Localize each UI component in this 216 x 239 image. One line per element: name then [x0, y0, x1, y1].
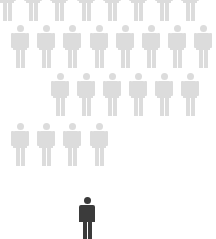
person-arm-r: [144, 0, 147, 1]
person-head: [69, 25, 76, 32]
person-leg-l: [82, 97, 86, 116]
person-leg-r: [21, 147, 25, 166]
person-arm-r: [118, 81, 121, 96]
person-icon: [104, 0, 120, 22]
person-leg-l: [82, 2, 86, 21]
person-arm-l: [11, 33, 14, 48]
person-arm-r: [105, 131, 108, 146]
person-torso: [39, 131, 53, 148]
person-icon: [52, 73, 68, 117]
person-leg-l: [134, 2, 138, 21]
person-icon: [12, 25, 28, 69]
person-head: [43, 25, 50, 32]
person-leg-l: [121, 49, 125, 68]
person-arm-r: [26, 131, 29, 146]
person-torso: [105, 81, 119, 98]
person-leg-r: [47, 147, 51, 166]
person-leg-r: [139, 2, 143, 21]
person-leg-r: [113, 97, 117, 116]
person-icon: [182, 0, 198, 22]
person-leg-r: [73, 49, 77, 68]
person-head: [122, 25, 129, 32]
person-arm-r: [13, 0, 16, 1]
person-torso: [92, 131, 106, 148]
person-leg-l: [16, 147, 20, 166]
person-leg-r: [191, 97, 195, 116]
person-leg-r: [204, 49, 208, 68]
person-arm-l: [37, 33, 40, 48]
person-arm-l: [11, 131, 14, 146]
person-arm-r: [170, 81, 173, 96]
person-icon: [78, 73, 94, 117]
person-arm-r: [65, 0, 68, 1]
person-head: [84, 197, 91, 204]
person-leg-l: [83, 221, 87, 239]
person-leg-r: [73, 147, 77, 166]
person-torso: [39, 33, 53, 50]
person-arm-r: [118, 0, 121, 1]
person-leg-l: [160, 97, 164, 116]
person-leg-l: [186, 2, 190, 21]
person-arm-l: [116, 33, 119, 48]
person-arm-r: [52, 131, 55, 146]
person-arm-r: [209, 33, 212, 48]
person-leg-l: [160, 2, 164, 21]
person-leg-r: [88, 221, 92, 239]
person-icon: [12, 123, 28, 167]
person-leg-r: [87, 2, 91, 21]
person-torso: [79, 81, 93, 98]
person-arm-l: [90, 33, 93, 48]
person-leg-l: [16, 49, 20, 68]
person-torso: [53, 81, 67, 98]
person-leg-r: [21, 49, 25, 68]
person-icon: [64, 25, 80, 69]
person-arm-l: [37, 131, 40, 146]
person-icon: [143, 25, 159, 69]
person-head: [187, 73, 194, 80]
person-leg-l: [55, 2, 59, 21]
person-arm-r: [39, 0, 42, 1]
person-leg-r: [87, 97, 91, 116]
person-icon: [64, 123, 80, 167]
person-leg-r: [165, 2, 169, 21]
person-head: [135, 73, 142, 80]
person-head: [96, 25, 103, 32]
person-arm-r: [196, 0, 199, 1]
person-icon: [78, 0, 94, 22]
person-head: [161, 73, 168, 80]
person-icon: [130, 0, 146, 22]
person-leg-l: [108, 2, 112, 21]
person-leg-l: [68, 147, 72, 166]
person-leg-r: [47, 49, 51, 68]
person-leg-l: [134, 97, 138, 116]
person-torso: [170, 33, 184, 50]
person-leg-r: [126, 49, 130, 68]
person-head: [83, 73, 90, 80]
person-leg-l: [68, 49, 72, 68]
person-leg-r: [178, 49, 182, 68]
person-leg-r: [100, 147, 104, 166]
person-arm-r: [78, 33, 81, 48]
person-icon: [169, 25, 185, 69]
person-leg-l: [173, 49, 177, 68]
person-arm-r: [131, 33, 134, 48]
person-arm-r: [78, 131, 81, 146]
person-torso: [13, 131, 27, 148]
person-leg-l: [95, 49, 99, 68]
person-torso: [144, 33, 158, 50]
person-head: [57, 73, 64, 80]
person-icon: [91, 25, 107, 69]
person-leg-l: [186, 97, 190, 116]
person-arm-l: [168, 33, 171, 48]
person-icon: [51, 0, 67, 22]
person-leg-r: [191, 2, 195, 21]
person-leg-r: [60, 2, 64, 21]
person-leg-r: [139, 97, 143, 116]
person-torso: [118, 33, 132, 50]
person-arm-l: [142, 33, 145, 48]
person-head: [174, 25, 181, 32]
person-arm-l: [194, 33, 197, 48]
person-arm-l: [103, 81, 106, 96]
person-head: [96, 123, 103, 130]
person-icon: [130, 73, 146, 117]
